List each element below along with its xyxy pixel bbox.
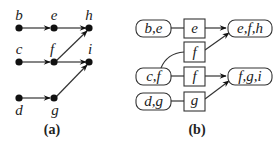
node-c [15,58,22,65]
cluster-label-e-f-h: e,f,h [237,20,263,36]
separator-label-e: e [191,20,198,36]
caption-b: (b) [188,122,205,138]
node-label-d: d [15,102,23,118]
node-b [15,24,22,31]
cluster-label-d-g: d,g [144,93,163,109]
panel-b: b,e c,f d,g e,f,h f,g,i e f f g (b) [136,19,272,138]
node-label-f: f [50,41,56,57]
node-d [15,94,22,101]
node-label-e: e [51,7,58,23]
separator-label-g: g [191,92,199,108]
cluster-label-c-f: c,f [146,68,162,84]
node-label-c: c [16,41,23,57]
node-label-g: g [51,102,59,118]
node-label-h: h [85,7,93,23]
cluster-label-f-g-i: f,g,i [238,68,261,84]
arrow-sep-f-top-efh [205,33,229,50]
node-h [85,24,92,31]
node-e [50,24,57,31]
node-i [85,58,92,65]
cluster-label-b-e: b,e [145,20,163,36]
panel-a: b e h c f i d g (a) [15,7,93,138]
node-g [50,94,57,101]
diagram-canvas: b e h c f i d g (a) b,e c,f d,g [0,0,278,146]
edge-g-i [55,65,87,98]
node-label-i: i [88,41,92,57]
link-cf-sep-f-top [161,52,184,68]
node-f [50,58,57,65]
node-label-b: b [15,7,23,23]
edge-f-h [55,31,87,62]
caption-a: (a) [44,122,61,138]
arrow-sep-g-fgi [205,81,229,99]
